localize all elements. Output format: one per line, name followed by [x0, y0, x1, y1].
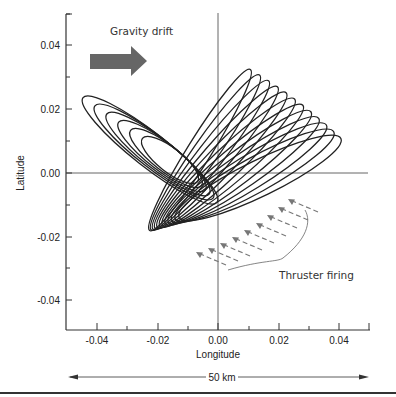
scale-label: 50 km	[208, 372, 235, 383]
gravity-drift-label: Gravity drift	[110, 25, 173, 37]
y-tick-label: -0.02	[37, 232, 60, 243]
orbit-tracks	[73, 63, 349, 237]
orbit-chart: 0.04 0.02 0.00 -0.02 -0.04 -0.04 -0.02 0…	[0, 0, 396, 397]
y-tick-label: 0.00	[41, 168, 61, 179]
thruster-arrows	[196, 199, 318, 265]
y-tick-labels: 0.04 0.02 0.00 -0.02 -0.04	[37, 40, 60, 306]
x-tick-label: 0.00	[208, 335, 228, 346]
bottom-rule	[0, 392, 396, 394]
x-tick-labels: -0.04 -0.02 0.00 0.02 0.04	[86, 335, 350, 346]
thruster-firing-label: Thruster firing	[278, 269, 354, 281]
y-tick-label: 0.04	[41, 40, 61, 51]
gravity-drift-arrow	[90, 46, 147, 76]
y-axis-title: Latitude	[15, 155, 26, 191]
y-tick-label: 0.02	[41, 104, 61, 115]
scale-bar: 50 km	[68, 372, 369, 383]
x-tick-label: 0.04	[329, 335, 349, 346]
x-tick-label: 0.02	[269, 335, 289, 346]
x-tick-label: -0.02	[147, 335, 170, 346]
y-tick-label: -0.04	[37, 295, 60, 306]
x-tick-label: -0.04	[86, 335, 109, 346]
x-axis-title: Longitude	[196, 349, 240, 360]
